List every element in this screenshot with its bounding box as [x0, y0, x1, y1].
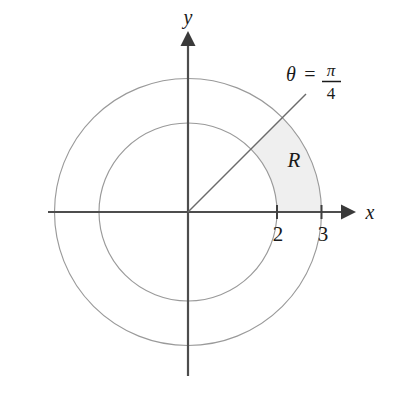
angle-label-group: θ = π 4	[286, 61, 341, 103]
figure-root: 2 3 x y R θ = π 4	[0, 0, 394, 405]
shaded-region-R	[251, 118, 322, 212]
y-axis-label: y	[182, 6, 193, 29]
x-axis-label: x	[365, 201, 375, 223]
x-tick-label-3: 3	[318, 222, 329, 246]
region-label-R: R	[287, 148, 301, 172]
angle-label-numerator-pi: π	[327, 61, 336, 80]
y-axis-arrowhead-icon	[181, 31, 196, 46]
x-tick-label-2: 2	[273, 222, 284, 246]
x-axis-arrowhead-icon	[341, 205, 356, 220]
angle-label-denominator-4: 4	[327, 84, 336, 103]
angle-label-equals: =	[304, 63, 315, 85]
angle-label-theta: θ	[286, 63, 296, 85]
polar-region-diagram: 2 3 x y R θ = π 4	[0, 0, 394, 405]
